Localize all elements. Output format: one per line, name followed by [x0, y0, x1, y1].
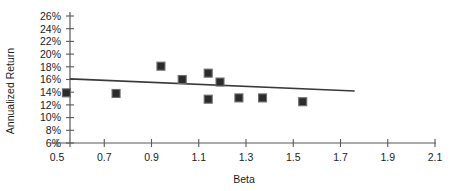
x-axis-title: Beta: [233, 173, 255, 185]
x-tick-label: 0.7: [97, 151, 112, 163]
x-tick-label: 0.9: [144, 151, 159, 163]
y-axis-title: Annualized Return: [4, 48, 16, 135]
chart-plot-area: 6%8%10%12%14%16%18%20%22%24%26% 0.50.70.…: [0, 0, 452, 191]
y-tick-label: 12%: [40, 99, 61, 111]
x-tick-label: 0.5: [50, 151, 65, 163]
data-point-marker: [157, 62, 165, 70]
y-tick-label: 20%: [40, 48, 61, 60]
y-tick-label: 18%: [40, 61, 61, 73]
data-point-marker: [62, 89, 70, 97]
data-point-marker: [204, 95, 212, 103]
data-point-marker: [299, 98, 307, 106]
x-tick-label: 2.1: [428, 151, 443, 163]
y-tick-label: 14%: [40, 86, 61, 98]
x-tick-label: 1.7: [333, 151, 348, 163]
data-point-marker: [112, 89, 120, 97]
data-point-marker: [259, 94, 267, 102]
y-tick-label: 24%: [40, 23, 61, 35]
x-tick-label: 1.3: [239, 151, 254, 163]
data-point-marker: [235, 94, 243, 102]
y-tick-label: 16%: [40, 73, 61, 85]
data-point-marker: [216, 78, 224, 86]
y-tick-label: 8%: [46, 124, 61, 136]
y-axis-tick-labels: 6%8%10%12%14%16%18%20%22%24%26%: [40, 10, 61, 149]
y-tick-label: 10%: [40, 111, 61, 123]
x-tick-label: 1.5: [286, 151, 301, 163]
x-tick-label: 1.9: [380, 151, 395, 163]
x-tick-label: 1.1: [191, 151, 206, 163]
scatter-chart-container: 6%8%10%12%14%16%18%20%22%24%26% 0.50.70.…: [0, 0, 452, 191]
data-point-markers: [62, 62, 306, 106]
y-tick-label: 26%: [40, 10, 61, 22]
x-axis-tick-labels: 0.50.70.91.11.31.51.71.92.1: [50, 151, 443, 163]
data-point-marker: [178, 76, 186, 84]
y-tick-label: 22%: [40, 35, 61, 47]
data-point-marker: [204, 69, 212, 77]
